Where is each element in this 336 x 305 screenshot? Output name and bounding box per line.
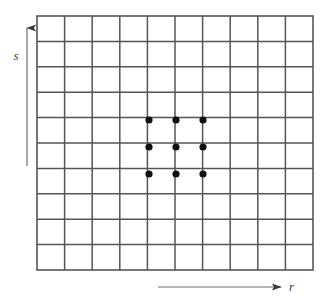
figure-container: s r xyxy=(0,0,336,305)
s-axis-label: s xyxy=(13,48,18,63)
point-marker xyxy=(172,143,179,150)
point-marker xyxy=(145,116,152,123)
point-marker xyxy=(199,116,206,123)
point-marker xyxy=(172,116,179,123)
point-marker xyxy=(172,170,179,177)
point-marker xyxy=(199,170,206,177)
point-marker xyxy=(145,170,152,177)
point-marker xyxy=(199,143,206,150)
grid-diagram: s r xyxy=(0,0,336,305)
point-marker xyxy=(145,143,152,150)
